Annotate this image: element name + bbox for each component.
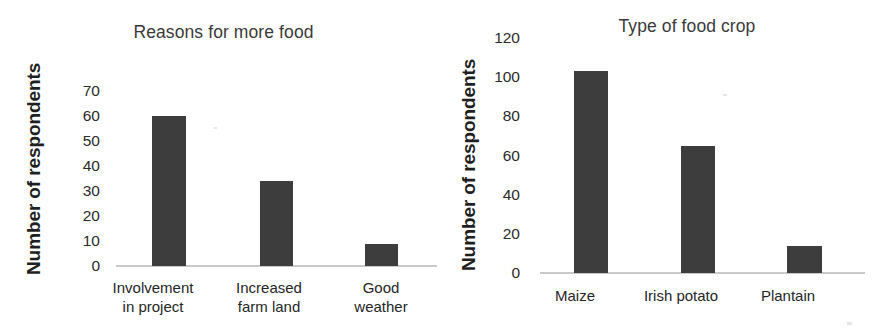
y-tick-label: 50: [60, 132, 100, 150]
y-tick-label: 20: [60, 207, 100, 225]
plot-area: [540, 38, 865, 274]
chart-title: Reasons for more food: [0, 22, 447, 43]
y-axis-title: Number of respondents: [23, 75, 45, 275]
y-tick-label: 10: [60, 232, 100, 250]
bar-plantain: [787, 246, 822, 273]
y-tick-label: 80: [465, 107, 520, 125]
x-category-label-line: weather: [328, 297, 434, 316]
scan-artifact: [847, 322, 852, 325]
y-tick-label: 0: [465, 264, 520, 282]
chart-reasons-for-more-food: Reasons for more food Number of responde…: [0, 0, 447, 332]
x-category-label-irish-potato: Irish potato: [627, 286, 735, 305]
x-category-label-line: Maize: [521, 286, 629, 305]
y-tick-label: 100: [465, 68, 520, 86]
bar-involvement-in-project: [152, 116, 186, 266]
y-tick-label: 30: [60, 182, 100, 200]
y-tick-label: 0: [60, 257, 100, 275]
x-category-label-good-weather: Good weather: [328, 278, 434, 316]
y-tick-label: 20: [465, 225, 520, 243]
bar-maize: [574, 71, 608, 273]
chart-title: Type of food crop: [507, 16, 867, 37]
x-category-label-plantain: Plantain: [734, 286, 842, 305]
x-category-label-involvement-in-project: Involvement in project: [100, 278, 206, 316]
x-category-label-line: Involvement: [100, 278, 206, 297]
x-category-label-line: Plantain: [734, 286, 842, 305]
x-category-label-line: in project: [100, 297, 206, 316]
plot-area: [116, 91, 437, 267]
y-tick-label: 120: [465, 29, 520, 47]
x-category-label-increased-farm-land: Increased farm land: [216, 278, 322, 316]
y-tick-label: 40: [60, 157, 100, 175]
y-tick-label: 40: [465, 186, 520, 204]
x-category-label-line: farm land: [216, 297, 322, 316]
bar-increased-farm-land: [260, 181, 293, 266]
y-tick-label: 70: [60, 82, 100, 100]
bar-irish-potato: [681, 146, 715, 273]
y-tick-label: 60: [60, 107, 100, 125]
x-category-label-line: Good: [328, 278, 434, 297]
chart-type-of-food-crop: Type of food crop Number of respondents …: [447, 0, 894, 332]
x-category-label-line: Increased: [216, 278, 322, 297]
scan-artifact: [214, 127, 217, 129]
x-category-label-maize: Maize: [521, 286, 629, 305]
bar-good-weather: [365, 244, 398, 266]
scan-artifact: [723, 94, 727, 96]
y-tick-label: 60: [465, 147, 520, 165]
x-category-label-line: Irish potato: [627, 286, 735, 305]
